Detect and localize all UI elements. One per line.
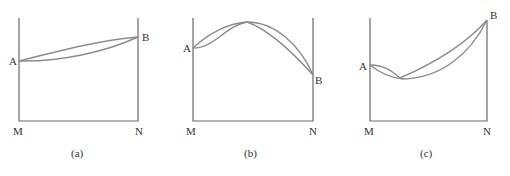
- panel-b-upper-curve: [193, 22, 313, 75]
- panel-a-label-n: N: [135, 125, 143, 137]
- panel-a-frame: [19, 18, 138, 121]
- phase-diagram-figure: A B M N (a) A B M N (b) A B M N (c): [0, 0, 510, 176]
- panel-c: A B M N (c): [359, 9, 497, 160]
- panel-b-label-n: N: [309, 125, 317, 137]
- panel-b-lower-curve: [193, 22, 313, 75]
- panel-c-caption: (c): [420, 147, 433, 160]
- panel-b-label-m: M: [186, 125, 196, 137]
- panel-a-label-a: A: [9, 55, 17, 67]
- panel-b-label-a: A: [183, 42, 191, 54]
- panel-c-label-a: A: [359, 60, 367, 72]
- panel-b-caption: (b): [244, 147, 257, 160]
- panel-c-upper-curve: [370, 20, 487, 78]
- panel-a-label-b: B: [142, 31, 149, 43]
- panel-c-label-n: N: [483, 125, 491, 137]
- panel-c-label-m: M: [364, 125, 374, 137]
- panel-a-upper-curve: [19, 37, 138, 61]
- panel-a-caption: (a): [71, 147, 84, 160]
- panel-c-lower-curve: [370, 20, 487, 79]
- panel-b-label-b: B: [315, 74, 322, 86]
- panel-a: A B M N (a): [9, 18, 149, 160]
- panel-a-label-m: M: [13, 125, 23, 137]
- panel-a-lower-curve: [19, 37, 138, 61]
- panel-b: A B M N (b): [183, 18, 322, 160]
- panel-c-label-b: B: [490, 9, 497, 21]
